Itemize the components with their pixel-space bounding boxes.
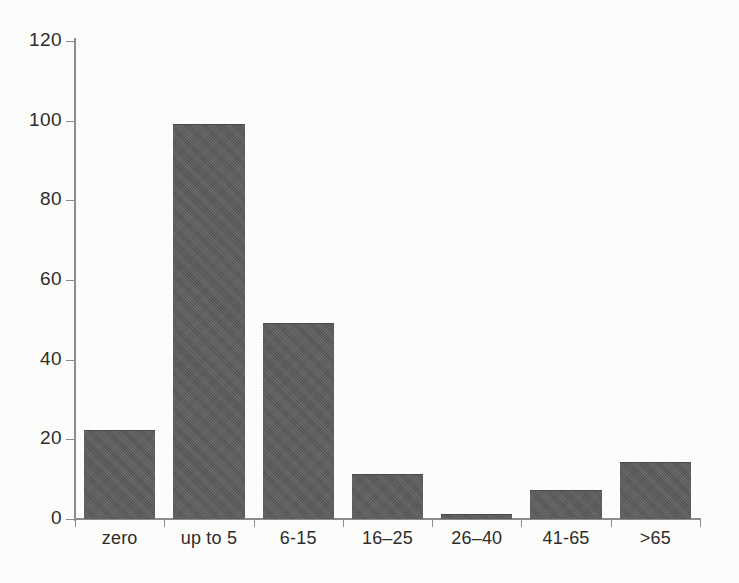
x-axis-tick-label: 26–40: [432, 528, 521, 549]
bar-chart-figure: 120 100 80 60 40 20 0 zero up to 5 6-15 …: [0, 0, 739, 583]
x-axis-tick-label: >65: [611, 528, 700, 549]
y-axis-tick-label: 40: [2, 348, 62, 370]
x-axis-tick: [611, 520, 612, 527]
x-axis-tick: [254, 520, 255, 527]
y-axis-tick: [66, 519, 75, 520]
x-axis-tick-label: 41-65: [521, 528, 610, 549]
bar: [352, 474, 423, 519]
x-axis-tick-label: 16–25: [343, 528, 432, 549]
y-axis-tick-label: 80: [2, 188, 62, 210]
bar: [441, 514, 512, 519]
y-axis-tick: [66, 280, 75, 281]
x-axis-tick-label: up to 5: [164, 528, 253, 549]
y-axis-labels: 120 100 80 60 40 20 0: [0, 0, 62, 583]
x-axis-tick-label: zero: [75, 528, 164, 549]
bar: [263, 323, 334, 519]
y-axis-tick: [66, 439, 75, 440]
x-axis-tick: [432, 520, 433, 527]
y-axis-tick-label: 120: [2, 29, 62, 51]
bar: [173, 124, 244, 519]
y-axis-tick-label: 20: [2, 427, 62, 449]
x-axis-tick-label: 6-15: [254, 528, 343, 549]
y-axis-tick-label: 0: [2, 507, 62, 529]
y-axis-tick: [66, 360, 75, 361]
y-axis-tick-label: 60: [2, 268, 62, 290]
y-axis-tick: [66, 200, 75, 201]
bar: [620, 462, 691, 519]
y-axis-tick: [66, 121, 75, 122]
y-axis-tick-label: 100: [2, 109, 62, 131]
bar: [84, 430, 155, 519]
plot-area: [75, 41, 700, 519]
x-axis-tick: [700, 520, 701, 527]
y-axis-tick: [66, 41, 75, 42]
x-axis-tick: [521, 520, 522, 527]
x-axis-tick: [343, 520, 344, 527]
bar: [530, 490, 601, 519]
x-axis-tick: [75, 520, 76, 527]
x-axis-tick: [164, 520, 165, 527]
